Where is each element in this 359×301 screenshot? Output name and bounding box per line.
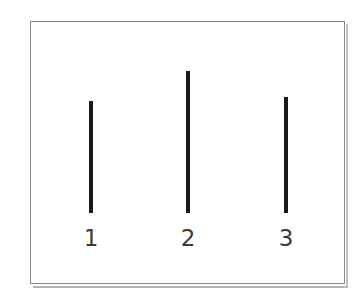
plot-frame: 1 2 3 xyxy=(30,21,345,284)
x-tick-label-1: 1 xyxy=(84,227,99,250)
frame-shadow-bottom xyxy=(33,286,348,288)
bar-category-2 xyxy=(186,71,190,213)
frame-shadow-right xyxy=(346,24,348,286)
figure-root: 1 2 3 xyxy=(0,0,359,301)
bar-category-1 xyxy=(89,101,93,213)
x-tick-label-2: 2 xyxy=(181,227,196,250)
plot-area: 1 2 3 xyxy=(31,22,344,283)
bar-category-3 xyxy=(284,97,288,213)
x-tick-label-3: 3 xyxy=(279,227,294,250)
